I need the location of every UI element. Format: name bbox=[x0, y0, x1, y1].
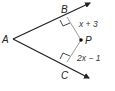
label-segment-bp: x + 3 bbox=[78, 19, 98, 29]
label-p: P bbox=[85, 35, 92, 46]
label-a: A bbox=[1, 34, 9, 45]
label-c: C bbox=[61, 70, 69, 81]
right-angle-mark-b bbox=[60, 20, 70, 26]
point-p bbox=[79, 38, 83, 42]
label-b: B bbox=[61, 4, 68, 15]
label-segment-cp: 2x − 1 bbox=[76, 53, 101, 63]
geometry-diagram: A B C P x + 3 2x − 1 bbox=[0, 0, 115, 91]
right-angle-mark-c bbox=[60, 53, 70, 59]
